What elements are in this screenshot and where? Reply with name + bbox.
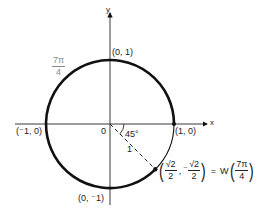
point-right-label: (1, 0) — [175, 127, 196, 136]
winding-point-dot — [153, 167, 157, 171]
winding-argument: 7π 4 — [235, 160, 248, 181]
equals-sign: = — [211, 166, 216, 176]
radius-label: 1 — [127, 145, 132, 154]
arc-label-denominator: 4 — [56, 67, 61, 77]
arc-length-label: 7π 4 — [52, 56, 65, 77]
point-top-label: (0, 1) — [112, 48, 133, 57]
point-left-label: (⁻1, 0) — [16, 127, 42, 136]
winding-point-label: ( √2 2 , ⁻ √2 2 ) = W ( 7π 4 ) — [158, 160, 255, 181]
x-coordinate: √2 2 — [165, 160, 177, 181]
point-bottom-label: (0, ⁻1) — [78, 194, 104, 203]
angle-arc — [120, 124, 124, 134]
x-axis-label: x — [210, 119, 214, 127]
y-coordinate: √2 2 — [188, 160, 200, 181]
y-axis-label: y — [106, 6, 110, 14]
unit-circle-diagram: y x 0 (0, 1) (1, 0) (⁻1, 0) (0, ⁻1) 7π 4… — [0, 0, 269, 211]
origin-label: 0 — [101, 127, 106, 136]
winding-function: W — [220, 166, 229, 176]
arc-label-numerator: 7π — [52, 56, 65, 67]
angle-label: 45° — [125, 130, 139, 139]
